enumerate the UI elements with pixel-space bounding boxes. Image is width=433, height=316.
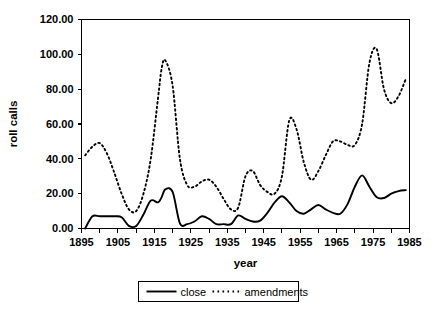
x-tick-label: 1925 [179, 236, 203, 248]
y-tick-label: 40.00 [46, 153, 74, 165]
axis-tick-marks [78, 20, 410, 234]
series-line-amendments [85, 48, 406, 213]
y-tick-label: 120.00 [40, 13, 74, 25]
y-tick-label: 80.00 [46, 83, 74, 95]
x-tick-label: 1985 [397, 236, 421, 248]
y-tick-label: 100.00 [40, 48, 74, 60]
x-tick-label: 1895 [69, 236, 93, 248]
x-tick-label: 1915 [142, 236, 166, 248]
legend-label-close: close [181, 286, 207, 298]
plot-border [82, 20, 410, 229]
y-tick-label: 0.00 [52, 222, 73, 234]
chart-legend: closeamendments [139, 282, 309, 302]
legend-label-amendments: amendments [245, 286, 309, 298]
x-axis-tick-labels: 1895190519151925193519451955196519751985 [69, 236, 421, 248]
series-line-close [85, 175, 406, 228]
y-axis-title: roll calls [7, 101, 19, 148]
y-axis-tick-labels: 0.0020.0040.0060.0080.00100.00120.00 [40, 13, 74, 234]
x-axis-title: year [234, 257, 258, 269]
x-tick-label: 1935 [215, 236, 239, 248]
data-series-layer [85, 48, 406, 229]
y-tick-label: 20.00 [46, 187, 74, 199]
chart-figure: 0.0020.0040.0060.0080.00100.00120.00 189… [0, 0, 433, 316]
x-tick-label: 1975 [361, 236, 385, 248]
x-tick-label: 1945 [251, 236, 275, 248]
line-chart: 0.0020.0040.0060.0080.00100.00120.00 189… [0, 0, 433, 316]
x-tick-label: 1965 [324, 236, 348, 248]
y-tick-label: 60.00 [46, 118, 74, 130]
x-tick-label: 1955 [288, 236, 312, 248]
x-tick-label: 1905 [106, 236, 130, 248]
plot-frame [82, 20, 410, 229]
